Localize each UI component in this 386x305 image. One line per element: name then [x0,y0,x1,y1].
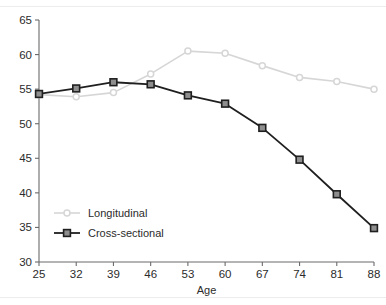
series-cross-sectional [36,79,378,232]
x-tick-label: 88 [368,268,381,280]
data-point-marker [334,79,340,85]
y-tick-label: 30 [19,256,32,268]
x-tick-label: 81 [330,268,343,280]
data-point-marker [110,90,116,96]
x-tick-label: 46 [144,268,157,280]
x-tick-label: 60 [219,268,232,280]
y-axis: 3035404550556065 [19,14,39,268]
data-point-marker [73,85,80,92]
chart-figure: 3035404550556065 25323946536067748188 Ag… [0,0,386,305]
y-tick-label: 55 [19,83,32,95]
data-point-marker [371,86,377,92]
data-point-marker [333,191,340,198]
y-tick-label: 50 [19,118,32,130]
data-point-marker [147,81,154,88]
data-point-marker [184,92,191,99]
y-tick-label: 60 [19,49,32,61]
data-point-marker [73,94,79,100]
y-tick-label: 35 [19,221,32,233]
legend-marker-swatch [64,230,71,237]
x-tick-label: 25 [33,268,46,280]
data-point-marker [222,100,229,107]
data-point-marker [297,74,303,80]
legend-marker-swatch [64,210,70,216]
legend-item-longitudinal[interactable]: Longitudinal [54,207,147,219]
legend-label: Cross-sectional [88,227,164,239]
x-tick-label: 74 [293,268,306,280]
y-tick-label: 40 [19,187,32,199]
chart-legend: LongitudinalCross-sectional [54,207,164,239]
legend-label: Longitudinal [88,207,147,219]
x-axis-ticks [39,262,374,266]
x-axis: 25323946536067748188 Age [33,262,381,296]
data-point-marker [222,50,228,56]
x-tick-label: 67 [256,268,269,280]
y-tick-label: 45 [19,152,32,164]
data-point-marker [36,91,43,98]
data-point-marker [371,225,378,232]
x-tick-label: 53 [181,268,194,280]
data-point-marker [259,63,265,69]
line-chart: 3035404550556065 25323946536067748188 Ag… [0,0,386,305]
y-axis-tick-labels: 3035404550556065 [19,14,32,268]
x-tick-label: 32 [70,268,83,280]
y-tick-label: 65 [19,14,32,26]
data-point-marker [259,124,266,131]
series-line [39,51,374,97]
x-axis-tick-labels: 25323946536067748188 [33,268,381,280]
data-point-marker [110,79,117,86]
data-point-marker [296,156,303,163]
data-point-marker [185,48,191,54]
legend-item-cross-sectional[interactable]: Cross-sectional [54,227,164,239]
y-axis-ticks [35,20,39,262]
x-axis-title: Age [197,284,217,296]
data-point-marker [148,71,154,77]
series-layer [36,48,378,231]
x-tick-label: 39 [107,268,120,280]
series-longitudinal [36,48,377,100]
